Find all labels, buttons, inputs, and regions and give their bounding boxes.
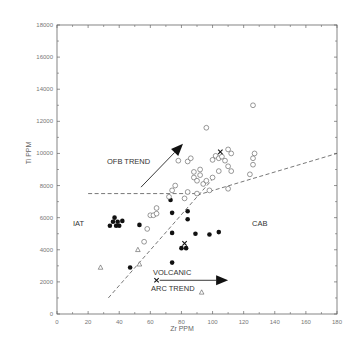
filled-circle-point [179, 246, 184, 251]
filled-circle-point [128, 265, 133, 270]
x-tick-label: 20 [85, 319, 92, 325]
y-tick-label: 18000 [36, 22, 53, 28]
open-triangle-point [199, 290, 204, 294]
open-circle-point [229, 151, 234, 156]
filled-circle-point [170, 211, 175, 216]
filled-circle-point [111, 219, 116, 224]
open-circle-point [188, 156, 193, 161]
open-circle-point [195, 191, 200, 196]
x-tick-label: 160 [301, 319, 312, 325]
open-circle-point [154, 211, 159, 216]
open-circle-point [198, 167, 203, 172]
y-tick-label: 12000 [36, 118, 53, 124]
open-triangle-point [137, 262, 142, 266]
open-circle-point [210, 157, 215, 162]
open-circle-point [251, 103, 256, 108]
y-tick-label: 8000 [40, 183, 54, 189]
annotation-arc-trend: ARC TREND [151, 284, 195, 293]
open-circle-point [176, 158, 181, 163]
open-circle-point [145, 227, 150, 232]
open-circle-point [170, 188, 175, 193]
open-circle-point [226, 186, 231, 191]
open-triangle-point [98, 265, 103, 269]
filled-circle-point [137, 223, 142, 228]
y-tick-label: 0 [50, 311, 54, 317]
open-circle-point [173, 183, 178, 188]
y-tick-label: 2000 [40, 279, 54, 285]
open-circle-point [142, 239, 147, 244]
open-circle-point [223, 158, 228, 163]
open-circle-point [219, 154, 224, 159]
y-tick-label: 14000 [36, 86, 53, 92]
y-tick-label: 6000 [40, 215, 54, 221]
open-circle-point [210, 175, 215, 180]
filled-circle-point [185, 209, 190, 214]
y-tick-label: 4000 [40, 247, 54, 253]
open-circle-point [204, 178, 209, 183]
open-triangle-point [136, 247, 141, 251]
open-circle-point [191, 170, 196, 175]
open-circle-point [198, 173, 203, 178]
x-tick-label: 0 [55, 319, 59, 325]
y-tick-label: 16000 [36, 54, 53, 60]
x-tick-label: 60 [147, 319, 154, 325]
open-circle-point [247, 172, 252, 177]
annotation-volcanic: VOLCANIC [153, 268, 192, 277]
open-circle-point [204, 125, 209, 130]
x-tick-label: 120 [239, 319, 250, 325]
y-tick-label: 10000 [36, 150, 53, 156]
x-tick-label: 40 [116, 319, 123, 325]
filled-circle-point [170, 260, 175, 265]
open-circle-point [195, 178, 200, 183]
cross-point [182, 241, 186, 245]
axis-ticks: 0204060801001201401601800200040006000800… [36, 22, 342, 325]
data-points [98, 103, 257, 294]
filled-circle-point [115, 219, 120, 224]
filled-circle-point [193, 231, 198, 236]
x-tick-label: 180 [332, 319, 343, 325]
scatter-chart: 0204060801001201401601800200040006000800… [0, 0, 356, 349]
annotation-cab: CAB [252, 219, 267, 228]
open-circle-point [251, 156, 256, 161]
filled-circle-point [120, 219, 125, 224]
filled-circle-point [185, 217, 190, 222]
filled-circle-point [207, 232, 212, 237]
filled-circle-point [108, 223, 113, 228]
open-circle-point [182, 196, 187, 201]
open-circle-point [226, 147, 231, 152]
open-circle-point [226, 164, 231, 169]
filled-circle-point [117, 223, 122, 228]
open-circle-point [185, 190, 190, 195]
open-circle-point [167, 194, 172, 199]
open-circle-point [207, 188, 212, 193]
x-axis-title: Zr PPM [170, 325, 194, 332]
arrow-head-icon [216, 275, 228, 285]
filled-circle-point [170, 231, 175, 236]
annotation-ofb-trend: OFB TREND [107, 157, 151, 166]
x-tick-label: 140 [270, 319, 281, 325]
annotation-iat: IAT [73, 219, 85, 228]
x-tick-label: 100 [208, 319, 219, 325]
open-circle-point [216, 169, 221, 174]
open-circle-point [229, 169, 234, 174]
plot-frame [57, 25, 337, 314]
filled-circle-point [112, 215, 117, 220]
y-axis-title: Ti PPM [25, 141, 32, 164]
open-circle-point [154, 206, 159, 211]
cross-point [218, 150, 222, 154]
open-circle-point [252, 151, 257, 156]
filled-circle-point [216, 230, 221, 235]
cross-point [154, 278, 158, 282]
open-circle-point [251, 162, 256, 167]
filled-circle-point [184, 246, 189, 251]
